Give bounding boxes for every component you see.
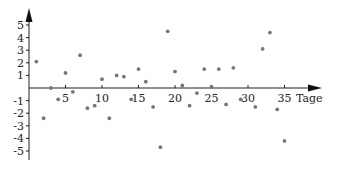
y-tick-label: 1: [17, 69, 24, 82]
data-point: [283, 139, 287, 143]
y-tick-label: 3: [17, 44, 24, 57]
data-point: [122, 75, 126, 79]
x-tick-label: 35: [278, 92, 292, 105]
data-point: [253, 105, 257, 109]
data-point: [188, 104, 192, 108]
data-point: [144, 80, 148, 84]
data-point: [173, 70, 177, 74]
data-point: [275, 108, 279, 112]
y-tick-label: 5: [17, 19, 24, 32]
x-tick-label: 15: [132, 92, 146, 105]
data-point: [42, 116, 46, 120]
x-tick-label: 5: [62, 92, 69, 105]
data-point: [166, 29, 170, 33]
scatter-chart: 5101520253035Tage-5-4-3-2-112345: [0, 0, 337, 174]
data-points: [34, 29, 286, 149]
data-point: [49, 86, 53, 90]
data-point: [202, 67, 206, 71]
data-point: [224, 102, 228, 106]
y-axis-arrow-icon: [26, 8, 33, 22]
data-point: [232, 66, 236, 70]
data-point: [137, 67, 141, 71]
data-point: [78, 53, 82, 57]
y-tick-label: 4: [17, 32, 24, 45]
x-tick-label: 10: [95, 92, 109, 105]
y-tick-label: -2: [13, 107, 24, 120]
y-tick-label: -3: [13, 120, 24, 133]
data-point: [180, 84, 184, 88]
y-tick-label: -1: [13, 95, 24, 108]
data-point: [64, 71, 68, 75]
data-point: [151, 105, 155, 109]
data-point: [34, 60, 38, 64]
data-point: [239, 97, 243, 101]
data-point: [159, 145, 163, 149]
data-point: [261, 47, 265, 51]
data-point: [115, 74, 119, 78]
data-point: [71, 90, 75, 94]
x-tick-label: 25: [205, 92, 219, 105]
data-point: [210, 85, 214, 89]
y-tick-label: 2: [17, 57, 24, 70]
x-axis-label: Tage: [296, 92, 323, 105]
data-point: [195, 91, 199, 95]
data-point: [268, 31, 272, 35]
data-point: [93, 104, 97, 108]
x-axis-arrow-icon: [308, 85, 322, 92]
data-point: [107, 116, 111, 120]
data-point: [56, 97, 60, 101]
data-point: [86, 106, 90, 110]
x-tick-label: 30: [241, 92, 255, 105]
data-point: [217, 67, 221, 71]
y-tick-label: -4: [13, 132, 24, 145]
y-tick-label: -5: [13, 145, 24, 158]
data-point: [129, 97, 133, 101]
x-tick-label: 20: [168, 92, 182, 105]
data-point: [100, 77, 104, 81]
